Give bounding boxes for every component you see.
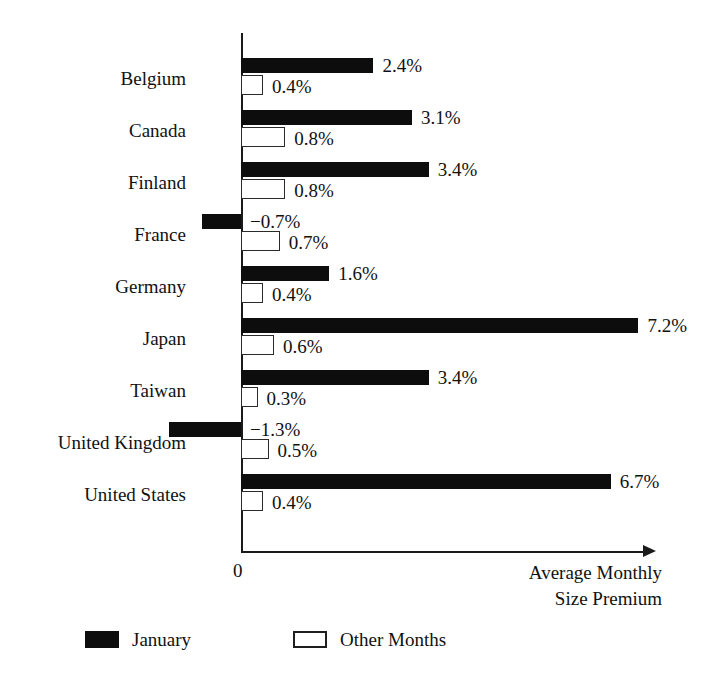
bar-other-months	[241, 231, 280, 251]
plot-area: 0 Average Monthly Size Premium Belgium2.…	[0, 0, 722, 684]
legend-label: Other Months	[340, 630, 446, 649]
size-premium-bar-chart: 0 Average Monthly Size Premium Belgium2.…	[0, 0, 722, 684]
value-label-other-months: 0.8%	[294, 181, 334, 200]
x-axis-title-line-1: Average Monthly	[402, 560, 662, 586]
value-label-other-months: 0.4%	[272, 77, 312, 96]
category-label: United States	[0, 485, 186, 506]
value-label-other-months: 0.6%	[283, 337, 323, 356]
bar-row: Germany1.6%0.4%	[0, 263, 722, 315]
bar-january	[169, 422, 241, 437]
bar-january	[241, 318, 638, 333]
chart-legend: JanuaryOther Months	[0, 630, 722, 660]
value-label-january: 2.4%	[382, 56, 422, 75]
bar-row: Finland3.4%0.8%	[0, 159, 722, 211]
bar-other-months	[241, 75, 263, 95]
x-axis-title: Average Monthly Size Premium	[402, 560, 662, 611]
value-label-january: 7.2%	[647, 316, 687, 335]
bar-january	[241, 58, 373, 73]
bar-january	[241, 266, 329, 281]
legend-swatch-filled-icon	[85, 631, 119, 648]
bar-january	[241, 162, 429, 177]
legend-item[interactable]: January	[85, 630, 191, 649]
bar-row: Canada3.1%0.8%	[0, 107, 722, 159]
value-label-january: 3.1%	[421, 108, 461, 127]
bar-january	[241, 474, 611, 489]
bar-row: United Kingdom−1.3%0.5%	[0, 419, 722, 471]
bar-row: United States6.7%0.4%	[0, 471, 722, 523]
value-label-january: 1.6%	[338, 264, 378, 283]
bar-january	[241, 110, 412, 125]
value-label-january: 3.4%	[438, 160, 478, 179]
x-axis-line	[241, 551, 649, 553]
value-label-other-months: 0.4%	[272, 493, 312, 512]
category-label: Finland	[0, 173, 186, 194]
category-label: Taiwan	[0, 381, 186, 402]
bar-january	[241, 370, 429, 385]
bar-other-months	[241, 439, 269, 459]
x-axis-title-line-2: Size Premium	[402, 586, 662, 612]
value-label-other-months: 0.3%	[267, 389, 307, 408]
category-label: France	[0, 225, 186, 246]
bar-january	[202, 214, 241, 229]
bar-row: Taiwan3.4%0.3%	[0, 367, 722, 419]
legend-label: January	[132, 630, 191, 649]
value-label-other-months: 0.7%	[289, 233, 329, 252]
legend-item[interactable]: Other Months	[293, 630, 446, 649]
bar-other-months	[241, 283, 263, 303]
value-label-other-months: 0.8%	[294, 129, 334, 148]
bar-other-months	[241, 127, 285, 147]
bar-row: France−0.7%0.7%	[0, 211, 722, 263]
legend-swatch-hollow-icon	[293, 631, 327, 648]
x-axis-zero-tick-label: 0	[233, 561, 243, 580]
value-label-january: 6.7%	[620, 472, 660, 491]
category-label: Japan	[0, 329, 186, 350]
category-label: Belgium	[0, 69, 186, 90]
category-label: Canada	[0, 121, 186, 142]
bar-other-months	[241, 491, 263, 511]
value-label-january: 3.4%	[438, 368, 478, 387]
value-label-january: −0.7%	[250, 212, 300, 231]
bar-other-months	[241, 179, 285, 199]
value-label-other-months: 0.5%	[278, 441, 318, 460]
category-label: United Kingdom	[0, 433, 186, 454]
bar-other-months	[241, 335, 274, 355]
value-label-other-months: 0.4%	[272, 285, 312, 304]
category-label: Germany	[0, 277, 186, 298]
bar-other-months	[241, 387, 258, 407]
bar-row: Belgium2.4%0.4%	[0, 55, 722, 107]
bar-row: Japan7.2%0.6%	[0, 315, 722, 367]
value-label-january: −1.3%	[250, 420, 300, 439]
x-axis-arrow-icon	[643, 545, 656, 557]
